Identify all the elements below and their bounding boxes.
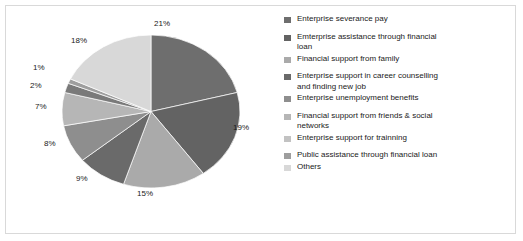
chart-frame: 21%19%15%9%8%7%2%1%18% Enterprise severa… xyxy=(5,5,516,234)
legend-item[interactable]: Public assistance through financial loan xyxy=(284,150,516,161)
legend-item-label: Enterprise support for trainning xyxy=(297,133,407,144)
legend-item-label: Others xyxy=(297,162,321,173)
legend-item[interactable]: Enterprise severance pay xyxy=(284,14,516,25)
legend-group: Enterprise support in career counselling… xyxy=(284,71,516,104)
pie-slice-label: 2% xyxy=(30,81,42,90)
pie-chart-graphic xyxy=(61,34,241,189)
legend-swatch-icon xyxy=(284,35,291,41)
pie-slice-label: 8% xyxy=(44,139,56,148)
pie-slices xyxy=(62,35,240,188)
legend-item[interactable]: Enterprise support for trainning xyxy=(284,133,516,144)
chart-legend: Enterprise severance payEmterprise assis… xyxy=(284,14,516,227)
legend-item[interactable]: Enterprise support in career counselling… xyxy=(284,71,516,92)
legend-item[interactable]: Enterprise unemployment benefits xyxy=(284,93,516,104)
legend-group: Financial support from friends & social … xyxy=(284,111,516,144)
legend-item[interactable]: Financial support from family xyxy=(284,54,516,65)
legend-item-label: Enterprise severance pay xyxy=(297,14,388,25)
legend-item-label: Financial support from friends & social … xyxy=(297,111,447,132)
legend-swatch-icon xyxy=(284,153,291,159)
legend-swatch-icon xyxy=(284,136,291,142)
legend-swatch-icon xyxy=(284,57,291,63)
legend-swatch-icon xyxy=(284,165,291,171)
legend-swatch-icon xyxy=(284,96,291,102)
legend-item[interactable]: Emterprise assistance through financial … xyxy=(284,32,516,53)
legend-item-label: Public assistance through financial loan xyxy=(297,150,437,161)
pie-slice-label: 9% xyxy=(76,174,88,183)
legend-item-label: Emterprise assistance through financial … xyxy=(297,32,447,53)
screenshot-root: 21%19%15%9%8%7%2%1%18% Enterprise severa… xyxy=(0,0,523,241)
legend-item[interactable]: Others xyxy=(284,162,516,173)
pie-slice-label: 7% xyxy=(35,102,47,111)
legend-group: Emterprise assistance through financial … xyxy=(284,32,516,65)
legend-group: Enterprise severance pay xyxy=(284,14,516,25)
legend-swatch-icon xyxy=(284,17,291,23)
legend-swatch-icon xyxy=(284,114,291,120)
legend-item-label: Financial support from family xyxy=(297,54,399,65)
pie-chart-plot-area: 21%19%15%9%8%7%2%1%18% xyxy=(6,6,286,235)
pie-slice-label: 21% xyxy=(154,19,170,28)
pie-slice-label: 18% xyxy=(71,36,87,45)
legend-swatch-icon xyxy=(284,74,291,80)
legend-item[interactable]: Financial support from friends & social … xyxy=(284,111,516,132)
legend-item-label: Enterprise unemployment benefits xyxy=(297,93,418,104)
legend-group: Public assistance through financial loan… xyxy=(284,150,516,172)
legend-item-label: Enterprise support in career counselling… xyxy=(297,71,447,92)
pie-slice-label: 15% xyxy=(137,189,153,198)
pie-svg xyxy=(61,34,241,189)
pie-slice-label: 1% xyxy=(33,63,45,72)
pie-slice-label: 19% xyxy=(233,123,249,132)
